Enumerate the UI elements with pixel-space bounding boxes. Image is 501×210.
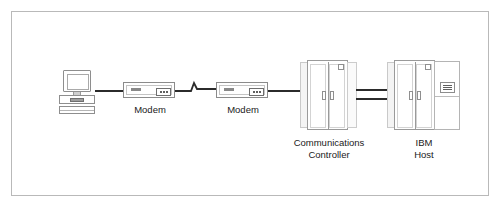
communications-controller-label: Communications Controller: [269, 137, 389, 160]
host-label-line-2: Host: [384, 149, 464, 161]
cabinet-door-split: [328, 62, 329, 130]
controller-label-line-2: Controller: [269, 149, 389, 161]
host-unit-control-panel: [440, 82, 455, 93]
modem-icon-1: [123, 82, 175, 98]
cabinet-indicator-light: [425, 64, 431, 70]
controller-label-line-1: Communications: [269, 137, 389, 149]
link-modem-to-controller: [268, 90, 300, 92]
terminal-workstation-icon: [59, 70, 95, 115]
modem-led: [160, 91, 162, 93]
telephone-line-lightning-icon: [175, 78, 217, 94]
modem-led-panel: [249, 88, 264, 96]
modem-led: [253, 91, 255, 93]
ibm-host-cabinet-icon: [387, 60, 461, 130]
ibm-host-label: IBM Host: [384, 137, 464, 160]
link-terminal-to-modem: [95, 90, 123, 92]
modem-icon-2: [216, 82, 268, 98]
link-controller-to-host-channel-a: [356, 89, 389, 91]
host-label-line-1: IBM: [384, 137, 464, 149]
host-unit-panel-line: [443, 87, 452, 88]
diagram-frame: Modem Modem: [11, 11, 489, 196]
host-unit-divider: [435, 96, 459, 97]
cabinet-handle-right: [330, 91, 334, 100]
modem-led: [259, 91, 261, 93]
host-unit-panel-line: [443, 89, 452, 90]
terminal-base-badge: [70, 98, 84, 102]
link-controller-to-host-channel-b: [356, 98, 389, 100]
modem-led: [166, 91, 168, 93]
cabinet-body: [307, 60, 348, 130]
cabinet-indicator-light: [338, 64, 344, 70]
cabinet-handle-right: [417, 91, 421, 100]
cabinet-handle-left: [322, 91, 326, 100]
cabinet-right-panel: [347, 62, 357, 128]
host-peripheral-unit: [434, 61, 460, 130]
modem-1-label: Modem: [124, 104, 176, 115]
modem-badge: [131, 88, 141, 91]
terminal-monitor: [63, 70, 91, 92]
modem-2-label: Modem: [217, 104, 269, 115]
terminal-keyboard: [59, 106, 95, 114]
modem-led: [256, 91, 258, 93]
cabinet-body: [394, 60, 435, 130]
modem-badge: [224, 88, 234, 91]
terminal-screen: [67, 74, 89, 90]
terminal-keyboard-line: [60, 110, 94, 111]
diagram-screenshot: Modem Modem: [0, 0, 501, 210]
cabinet-door-split: [415, 62, 416, 130]
modem-led-panel: [156, 88, 171, 96]
modem-led: [163, 91, 165, 93]
communications-controller-cabinet-icon: [300, 60, 357, 130]
host-unit-panel-line: [443, 85, 452, 86]
terminal-base: [59, 95, 95, 104]
cabinet-handle-left: [409, 91, 413, 100]
